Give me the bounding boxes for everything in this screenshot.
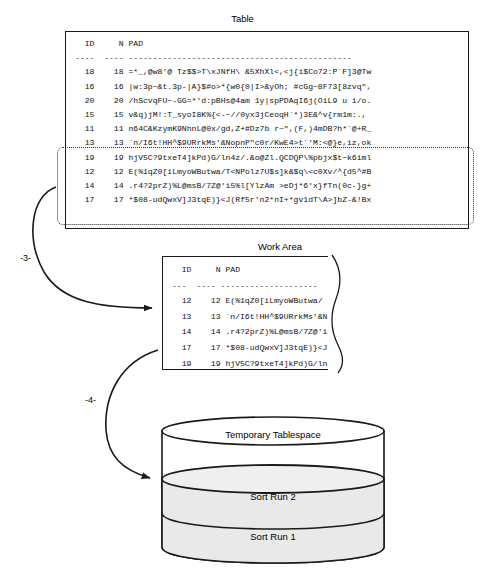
tablespace-sort-run-1-label: Sort Run 1	[158, 531, 388, 542]
diagram-canvas: Table ID N PAD ---- ---- ---------------…	[0, 0, 485, 573]
tablespace-sort-run-2-label: Sort Run 2	[158, 491, 388, 502]
table-row: 13 13 `n/I6t!HH^$9URrkMs'&NopnP"c0r/KwE4…	[66, 136, 468, 150]
table-row: 12 12 E(%1qZ0[iLmyoWButwa/T<NPolz7U$s]k&…	[66, 165, 468, 179]
table-row: 17 17 *$08-udQwxV]J3tqE)}<J(Rf5r'n2*nI+*…	[66, 193, 468, 207]
arrow-step-4	[106, 350, 158, 478]
work-area-box: ID N PAD --- ---- -------------------- 1…	[162, 256, 338, 370]
work-area-row: 17 17 *$08-udQwxV]J3tqE)}<J(	[163, 340, 337, 356]
table-column-header: ID N PAD	[66, 37, 468, 51]
table-caption: Table	[0, 13, 485, 24]
tablespace-fill-level-face	[162, 465, 384, 493]
tablespace-title: Temporary Tablespace	[158, 429, 388, 440]
table-row: 15 15 v&q)jM!:T_syoI8K%{<-~//0yx3jCeoqH`…	[66, 108, 468, 122]
table-row: 14 14 .r4?2prZ)%L@msB/7Z@'i5%l[YlzAm >eD…	[66, 179, 468, 193]
table-header-rule: ---- ---- ------------------------------…	[66, 51, 468, 65]
table-row: 11 11 n64C&KzymK9NhnL@0x/gd,Z+#Dz7b r~",…	[66, 122, 468, 136]
table-row: 16 16 |w:3p~&t.3p-|A}$#o>*{w0{0|I>&yOh; …	[66, 80, 468, 94]
table-box: ID N PAD ---- ---- ---------------------…	[65, 31, 469, 229]
temporary-tablespace: Temporary Tablespace Sort Run 2 Sort Run…	[158, 413, 388, 565]
step-3-label: -3-	[20, 253, 31, 263]
table-row: 18 18 =*_,@w8'@ Tz$$>T\xJNfH\ &5XhXl<,<j…	[66, 65, 468, 79]
work-area-row: 14 14 .r4?2prZ)%L@msB/7Z@'i5%	[163, 324, 337, 340]
table-row: 19 19 hjV5C?9txeT4]kPd)G/ln4z/.&o@Zl.QCD…	[66, 151, 468, 165]
work-area-header-rule: --- ---- --------------------	[163, 278, 337, 294]
work-area-row: 12 12 E(%1qZ0[iLmyoWButwa/	[163, 293, 337, 309]
work-area-caption: Work Area	[130, 241, 430, 252]
work-area-column-header: ID N PAD	[163, 262, 337, 278]
table-row: 20 20 /hScvqFU~-GG=*'d:pBHs@4am 1y|spPDA…	[66, 94, 468, 108]
work-area-row: 19 19 hjV5C?9txeT4]kPd)G/ln4z	[163, 356, 337, 370]
step-4-label: -4-	[85, 395, 96, 405]
work-area-row: 13 13 `n/I6t!HH^$9URrkMs'&N	[163, 309, 337, 325]
